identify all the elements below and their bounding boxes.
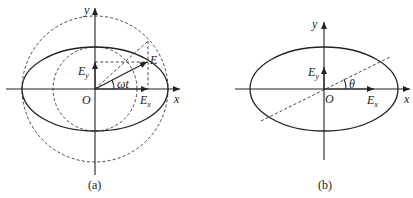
angle-arc (344, 79, 346, 89)
angle-arc (112, 80, 114, 89)
x-label: x (403, 92, 410, 106)
caption-b: (b) (318, 178, 332, 192)
ey-label: Ey (307, 65, 319, 81)
ex-label: Ex (139, 93, 151, 109)
panel-a: y x O ωt E Ex Ey (a) (6, 3, 180, 192)
x-label: x (173, 92, 180, 106)
ey-label: Ey (77, 64, 89, 80)
figure: y x O ωt E Ex Ey (a) y x O θ Ex Ey (b) (0, 0, 413, 198)
origin-label: O (82, 93, 91, 107)
panel-b: y x O θ Ex Ey (b) (235, 17, 410, 192)
y-label: y (83, 3, 90, 17)
ex-label: Ex (366, 93, 378, 109)
caption-a: (a) (88, 178, 101, 192)
angle-label: θ (349, 77, 355, 91)
y-label: y (311, 17, 318, 31)
angle-label: ωt (117, 77, 129, 91)
origin-label: O (325, 92, 334, 106)
e-label: E (149, 53, 158, 67)
